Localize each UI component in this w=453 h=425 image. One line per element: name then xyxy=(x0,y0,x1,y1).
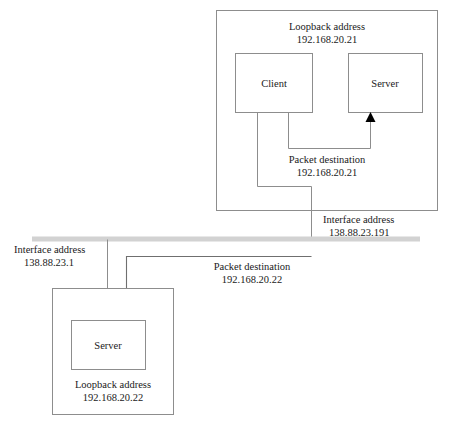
top-interface-label-line1: Interface address xyxy=(323,214,394,225)
network-diagram: Loopback address 192.168.20.21 Client Se… xyxy=(0,0,453,425)
loopback-packet-label-line1: Packet destination xyxy=(289,154,366,165)
top-host-loopback-label-line1: Loopback address xyxy=(289,21,365,32)
client-label: Client xyxy=(261,78,287,89)
top-server-label: Server xyxy=(371,78,399,89)
bottom-host-loopback-label-line1: Loopback address xyxy=(75,379,151,390)
outbound-packet-label-line1: Packet destination xyxy=(214,261,291,272)
bottom-interface-label-line1: Interface address xyxy=(14,244,85,255)
diagram-canvas: Loopback address 192.168.20.21 Client Se… xyxy=(0,0,453,425)
loopback-packet-label-line2: 192.168.20.21 xyxy=(297,167,357,178)
outbound-packet-label-line2: 192.168.20.22 xyxy=(222,274,282,285)
bottom-interface-label-line2: 138.88.23.1 xyxy=(24,257,74,268)
bottom-server-label: Server xyxy=(94,340,122,351)
top-host-loopback-label-line2: 192.168.20.21 xyxy=(297,34,357,45)
bottom-host-loopback-label-line2: 192.168.20.22 xyxy=(83,392,143,403)
top-interface-label-line2: 138.88.23.191 xyxy=(329,227,389,238)
